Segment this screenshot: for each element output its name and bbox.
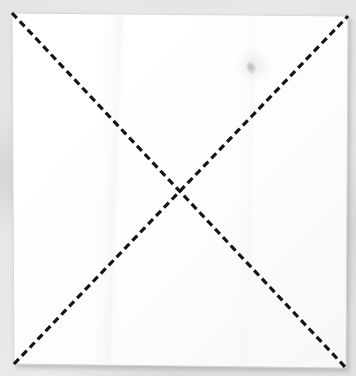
paper-and-creases-svg — [0, 0, 356, 376]
paper-diagram-scene: Square sheet of paper with two dashed di… — [0, 0, 356, 376]
paper-sheet — [0, 0, 356, 376]
